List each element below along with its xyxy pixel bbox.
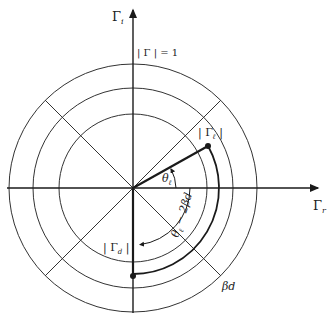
real-axis-label: Γr xyxy=(313,198,327,215)
reflection-coefficient-diagram: Γi Γr | Γ | = 1 | Γℓ | θℓ θℓ − 2βd | Γd … xyxy=(0,0,330,319)
theta-l-label: θℓ xyxy=(162,172,172,187)
beta-d-label: βd xyxy=(221,280,235,293)
theta-l-arc xyxy=(171,169,176,188)
gamma-d-point xyxy=(130,273,136,279)
gamma-d-label: | Γd | xyxy=(103,241,130,256)
imag-axis-label: Γi xyxy=(112,9,124,26)
gamma-l-label: | Γℓ | xyxy=(198,126,223,141)
unit-circle-label: | Γ | = 1 xyxy=(137,47,178,59)
